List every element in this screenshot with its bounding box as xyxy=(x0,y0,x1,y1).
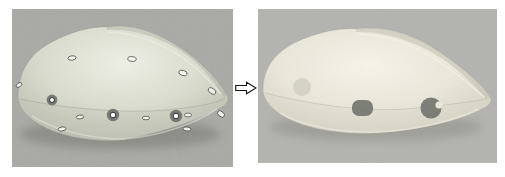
mouse-with-markers-render xyxy=(12,9,233,167)
photo-mouse-markers-removed xyxy=(258,9,497,163)
right-arrow-icon xyxy=(235,81,257,95)
photo-grain xyxy=(12,9,233,167)
before-after-figure xyxy=(0,0,505,177)
photo-grain xyxy=(258,9,497,163)
photo-mouse-with-markers xyxy=(12,9,233,167)
right-arrow-shape xyxy=(236,82,256,94)
mouse-without-markers-render xyxy=(258,9,497,163)
